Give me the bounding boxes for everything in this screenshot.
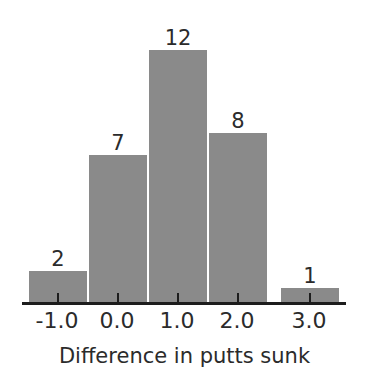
x-axis-tick-labels: -1.0 0.0 1.0 2.0 3.0 [0,310,369,340]
bar-value-label: 12 [149,28,207,49]
bar-value-label: 1 [281,266,339,287]
bar-group: 12 [149,5,207,310]
x-axis-tick [117,293,119,305]
bar-value-label: 7 [89,133,147,154]
bar-group: 2 [29,5,87,310]
bar-group: 1 [281,5,339,310]
histogram-figure: 2 7 12 8 1 -1.0 0.0 1.0 [0,0,369,386]
x-axis-tick [177,293,179,305]
bar-value-label: 8 [209,111,267,132]
bar-value-label: 2 [29,249,87,270]
x-axis-tick [309,293,311,305]
x-axis-tick [57,293,59,305]
plot-area: 2 7 12 8 1 [0,0,369,310]
x-axis-tick-label: 2.0 [198,310,276,332]
x-axis-line [22,302,346,305]
x-axis-tick-label: 3.0 [270,310,348,332]
bar-rect[interactable] [89,155,147,305]
bar-rect[interactable] [149,50,207,305]
x-axis-tick [237,293,239,305]
bar-group: 8 [209,5,267,310]
bar-rect[interactable] [209,133,267,305]
bar-group: 7 [89,5,147,310]
x-axis-title: Difference in putts sunk [0,346,369,367]
